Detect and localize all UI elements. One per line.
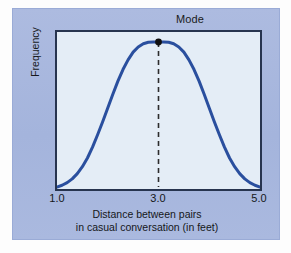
bell-curve-plot bbox=[57, 32, 260, 189]
x-axis-caption-line1: Distance between pairs bbox=[32, 208, 262, 221]
mode-point-marker bbox=[155, 39, 162, 46]
x-axis-tick-labels: 1.0 3.0 5.0 bbox=[55, 192, 262, 206]
plot-area bbox=[55, 30, 262, 191]
mode-annotation-text: Mode bbox=[176, 13, 204, 25]
chart-panel: Mode Frequency 1.0 3.0 5.0 Distance betw… bbox=[12, 8, 280, 240]
x-axis-caption-line2: in casual conversation (in feet) bbox=[32, 221, 262, 234]
x-tick-0: 1.0 bbox=[49, 192, 64, 204]
x-axis-caption: Distance between pairs in casual convers… bbox=[32, 208, 262, 234]
mode-annotation-label: Mode bbox=[12, 13, 280, 25]
figure-container: Mode Frequency 1.0 3.0 5.0 Distance betw… bbox=[0, 0, 291, 253]
x-tick-2: 5.0 bbox=[251, 192, 266, 204]
x-tick-1: 3.0 bbox=[150, 192, 165, 204]
y-axis-label: Frequency bbox=[29, 7, 41, 97]
